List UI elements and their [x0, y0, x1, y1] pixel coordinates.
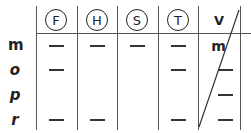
strike-through-line	[0, 0, 251, 133]
